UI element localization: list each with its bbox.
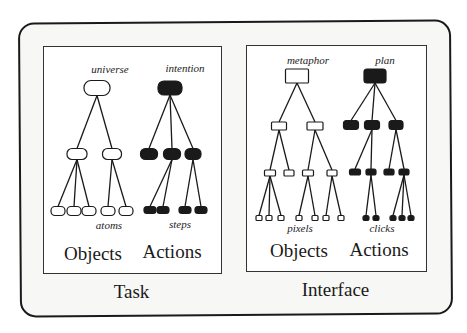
tree-node (67, 149, 87, 160)
tree-node (272, 122, 287, 130)
tree-edge (404, 175, 411, 216)
tree-node (119, 207, 133, 216)
tree-node (286, 69, 309, 83)
label-plan: plan (345, 54, 425, 66)
tree-node (284, 170, 294, 176)
tree-edge (315, 130, 332, 170)
tree-edge (170, 95, 172, 149)
interface-actions-label: Actions (334, 239, 424, 261)
tree-node (144, 207, 156, 214)
tree-edge (372, 83, 375, 121)
tree-edge (371, 130, 372, 170)
tree-node (363, 216, 369, 221)
tree-edge (270, 130, 279, 170)
tree-edge (279, 130, 289, 170)
tree-node (323, 216, 329, 221)
tree-node (303, 170, 314, 176)
label-metaphor: metaphor (268, 54, 348, 66)
tree-node (307, 122, 323, 130)
diagram-stage: universe intention atoms steps Objects A… (0, 0, 467, 333)
label-intention: intention (145, 62, 225, 74)
tree-edge (185, 160, 193, 207)
tree-edge (193, 160, 201, 207)
tree-node (408, 216, 414, 221)
tree-edge (366, 175, 371, 216)
tree-edge (77, 160, 89, 207)
label-pixels: pixels (260, 222, 340, 234)
tree-node (399, 216, 405, 221)
tree-node (373, 216, 379, 221)
tree-node (312, 216, 318, 221)
tree-edge (396, 130, 404, 170)
tree-edge (297, 83, 315, 122)
tree-edge (375, 83, 396, 121)
tree-edge (112, 160, 126, 207)
tree-edge (389, 130, 396, 170)
tree-node (338, 216, 344, 221)
tree-node (157, 207, 169, 214)
tree-node (296, 216, 302, 221)
tree-node (185, 149, 201, 160)
task-caption: Task (43, 281, 220, 303)
tree-node (179, 207, 191, 214)
label-clicks: clicks (342, 222, 422, 234)
tree-node (103, 149, 122, 160)
label-universe: universe (70, 63, 150, 75)
tree-node (384, 169, 394, 175)
task-actions-tree (141, 81, 208, 214)
tree-edge (299, 176, 308, 216)
tree-node (390, 216, 396, 221)
tree-node (399, 169, 409, 175)
tree-edge (108, 160, 112, 207)
tree-node (195, 207, 207, 214)
tree-node (327, 170, 337, 176)
task-objects-tree (51, 81, 133, 216)
tree-node (278, 216, 284, 221)
iface-actions-tree (344, 69, 415, 221)
tree-node (350, 169, 361, 175)
tree-edge (77, 96, 97, 149)
tree-node (51, 207, 65, 216)
tree-edge (269, 176, 270, 216)
label-steps: steps (140, 218, 220, 230)
tree-edge (259, 176, 270, 216)
tree-edge (351, 83, 375, 121)
tree-edge (163, 160, 172, 207)
iface-objects-tree (256, 69, 344, 221)
tree-node (256, 216, 262, 221)
tree-node (366, 169, 376, 175)
tree-node (365, 121, 380, 130)
tree-node (389, 121, 403, 130)
tree-node (82, 207, 96, 216)
tree-node (164, 149, 181, 160)
tree-edge (170, 95, 193, 149)
label-atoms: atoms (69, 219, 149, 231)
tree-edge (279, 83, 297, 122)
tree-edge (371, 175, 376, 216)
tree-node (101, 207, 115, 216)
tree-node (158, 81, 182, 95)
tree-edge (308, 176, 315, 216)
task-objects-label: Objects (48, 243, 138, 265)
tree-edge (308, 130, 315, 170)
tree-node (84, 81, 110, 96)
interface-caption: Interface (246, 279, 425, 301)
tree-node (364, 69, 386, 83)
tree-node (266, 216, 272, 221)
tree-edge (355, 130, 372, 170)
tree-node (344, 121, 359, 130)
tree-edge (332, 176, 341, 216)
tree-edge (326, 176, 332, 216)
tree-edge (270, 176, 281, 216)
tree-edge (149, 95, 170, 149)
tree-node (141, 149, 158, 160)
interface-objects-label: Objects (254, 240, 344, 262)
tree-node (67, 207, 81, 216)
tree-edge (97, 96, 112, 149)
tree-node (265, 170, 276, 176)
task-actions-label: Actions (127, 241, 217, 263)
tree-edge (150, 160, 172, 207)
